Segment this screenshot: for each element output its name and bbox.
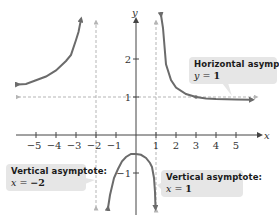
y-tick-label: 1 xyxy=(125,92,131,103)
x-tick-label: −1 xyxy=(107,140,122,151)
equation-sign: = xyxy=(16,177,30,188)
callout-equation: x = −2 xyxy=(11,177,81,188)
y-axis-label: y xyxy=(131,7,138,18)
x-tick-label: 5 xyxy=(233,140,239,151)
x-tick-label: −3 xyxy=(67,140,82,151)
x-tick-label: 3 xyxy=(193,140,199,151)
equation-sign: = xyxy=(171,183,185,194)
x-axis-label: x xyxy=(264,130,270,141)
middle-branch xyxy=(108,154,156,208)
callout-title: Vertical asymptote: xyxy=(166,172,238,183)
equation-value: −2 xyxy=(30,177,45,188)
y-tick-label: 2 xyxy=(125,54,131,65)
vertical-asymptote-right-callout: Vertical asymptote: x = 1 xyxy=(161,170,243,197)
x-tick-label: 2 xyxy=(173,140,179,151)
point-3-1 xyxy=(194,95,198,99)
equation-value: 1 xyxy=(213,70,220,81)
x-tick-labels: −5 −4 −3 −2 −1 1 2 3 4 5 xyxy=(27,140,240,151)
x-tick-label: −2 xyxy=(87,140,102,151)
x-tick-label: 1 xyxy=(153,140,159,151)
x-tick-label: 4 xyxy=(213,140,219,151)
x-tick-label: −5 xyxy=(27,140,42,151)
horizontal-asymptote-callout: Horizontal asymptote: y = 1 xyxy=(189,57,277,84)
callout-equation: y = 1 xyxy=(194,70,272,81)
equation-sign: = xyxy=(199,70,213,81)
callout-title: Vertical asymptote: xyxy=(11,166,81,177)
callout-title: Horizontal asymptote: xyxy=(194,59,272,70)
equation-value: 1 xyxy=(185,183,192,194)
left-branch xyxy=(18,19,81,84)
vertical-asymptote-left-callout: Vertical asymptote: x = −2 xyxy=(6,164,86,191)
callout-equation: x = 1 xyxy=(166,183,238,194)
x-tick-label: −4 xyxy=(47,140,62,151)
